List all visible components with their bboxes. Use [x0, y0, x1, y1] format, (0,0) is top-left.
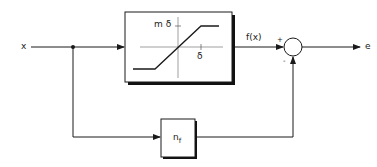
y-tick-label: m δ [154, 20, 171, 29]
input-label: x [21, 42, 26, 51]
output-label: e [365, 42, 371, 51]
x-tick-label: δ [197, 52, 203, 61]
nf-label: nf [173, 133, 181, 145]
nf-subscript: f [179, 137, 181, 145]
fx-label: f(x) [246, 33, 262, 42]
block-diagram-canvas [0, 0, 377, 167]
minus-sign: - [283, 58, 286, 65]
plus-sign: + [277, 37, 283, 44]
summing-junction [284, 38, 302, 56]
